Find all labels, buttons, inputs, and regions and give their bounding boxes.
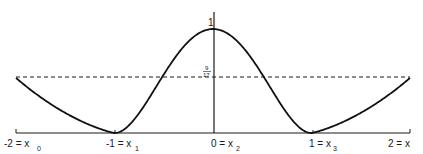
x-tick-label-4: 2 = x	[388, 138, 410, 149]
x-tick-label-3: 1 = x 3	[309, 138, 337, 152]
svg-text:2 = x: 2 = x	[388, 138, 410, 149]
svg-text:2: 2	[236, 145, 240, 152]
svg-text:3: 3	[333, 145, 337, 152]
svg-text:1: 1	[135, 145, 139, 152]
svg-text:1 = x: 1 = x	[309, 138, 331, 149]
x-tick-label-1: -1 = x 1	[106, 138, 139, 152]
svg-text:0 = x: 0 = x	[211, 138, 233, 149]
fraction-numerator: 9	[205, 65, 209, 71]
curve-line	[16, 29, 410, 133]
x-tick-label-0: -2 = x 0	[4, 138, 41, 152]
svg-text:0: 0	[37, 145, 41, 152]
y-label-one: 1	[208, 17, 214, 28]
fraction-denominator: 17	[203, 72, 210, 78]
x-tick-label-2: 0 = x 2	[211, 138, 240, 152]
chart-canvas: 1 9 17 -2 = x 0 -1 = x 1 0 = x 2 1 = x 3…	[0, 0, 423, 154]
svg-text:-2 = x: -2 = x	[4, 138, 29, 149]
svg-text:-1 = x: -1 = x	[106, 138, 131, 149]
